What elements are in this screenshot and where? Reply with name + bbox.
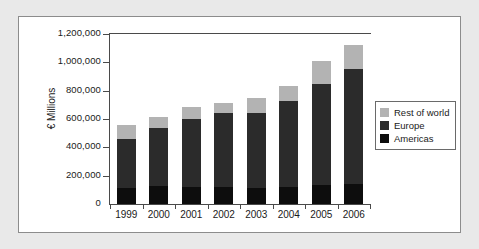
bar-segment-europe[interactable] [247, 113, 266, 189]
bar-segment-americas[interactable] [117, 188, 136, 204]
bar-segment-europe[interactable] [279, 101, 298, 186]
bar-stack[interactable] [247, 98, 266, 204]
legend-swatch-icon [380, 134, 389, 143]
bar-stack[interactable] [312, 61, 331, 204]
bar-group[interactable] [279, 34, 298, 204]
y-axis-title: € Millions [46, 54, 57, 164]
bar-segment-rest-of-world[interactable] [117, 125, 136, 138]
bar-group[interactable] [344, 34, 363, 204]
bar-segment-rest-of-world[interactable] [344, 45, 363, 69]
x-axis-tick-label: 2001 [175, 209, 208, 220]
bar-segment-rest-of-world[interactable] [182, 107, 201, 119]
y-axis-tick-label: 600,000 [66, 112, 101, 123]
bar-group[interactable] [117, 34, 136, 204]
bar-stack[interactable] [279, 86, 298, 204]
x-axis-tick-label: 2003 [240, 209, 273, 220]
x-axis-tick-label: 2002 [208, 209, 241, 220]
bar-segment-europe[interactable] [214, 113, 233, 187]
bar-stack[interactable] [182, 107, 201, 204]
x-axis-tick-mark [370, 204, 371, 209]
bar-segment-rest-of-world[interactable] [247, 98, 266, 112]
bar-segment-rest-of-world[interactable] [149, 117, 168, 127]
bar-segment-europe[interactable] [149, 128, 168, 187]
bar-segment-rest-of-world[interactable] [214, 103, 233, 113]
y-axis-tick-label: 1,200,000 [58, 27, 101, 38]
x-axis-tick-label: 2004 [273, 209, 306, 220]
bar-segment-europe[interactable] [312, 84, 331, 185]
legend-item-label: Rest of world [394, 107, 449, 118]
y-axis-tick-label: 200,000 [66, 169, 101, 180]
y-axis-tick-label: 1,000,000 [58, 55, 101, 66]
bar-group[interactable] [247, 34, 266, 204]
bar-group[interactable] [214, 34, 233, 204]
bar-group[interactable] [312, 34, 331, 204]
bar-segment-americas[interactable] [344, 184, 363, 204]
x-axis-tick-label: 2006 [338, 209, 371, 220]
bar-segment-rest-of-world[interactable] [312, 61, 331, 84]
bar-group[interactable] [182, 34, 201, 204]
x-axis-tick-label: 1999 [110, 209, 143, 220]
bar-segment-europe[interactable] [117, 139, 136, 188]
legend-item[interactable]: Americas [380, 132, 449, 145]
bar-stack[interactable] [117, 125, 136, 204]
bar-segment-americas[interactable] [182, 187, 201, 204]
bar-segment-europe[interactable] [344, 69, 363, 184]
x-axis-tick-label: 2000 [143, 209, 176, 220]
bar-segment-americas[interactable] [312, 185, 331, 204]
y-axis-tick-label: 400,000 [66, 140, 101, 151]
bar-segment-americas[interactable] [149, 186, 168, 204]
stacked-bar-chart: € Millions 0200,000400,000600,000800,000… [19, 17, 462, 234]
y-axis-tick-label: 800,000 [66, 84, 101, 95]
bar-segment-americas[interactable] [279, 187, 298, 204]
legend-item-label: Europe [394, 120, 425, 131]
bars-container [110, 34, 370, 204]
bar-stack[interactable] [214, 103, 233, 204]
bar-segment-europe[interactable] [182, 119, 201, 187]
y-axis-tick-label: 0 [96, 197, 101, 208]
legend-swatch-icon [380, 108, 389, 117]
bar-segment-americas[interactable] [247, 188, 266, 204]
chart-panel: € Millions 0200,000400,000600,000800,000… [18, 16, 461, 233]
x-axis-tick-label: 2005 [305, 209, 338, 220]
chart-page: € Millions 0200,000400,000600,000800,000… [0, 0, 479, 249]
bar-group[interactable] [149, 34, 168, 204]
bar-segment-americas[interactable] [214, 187, 233, 204]
legend-item[interactable]: Rest of world [380, 106, 449, 119]
legend-item[interactable]: Europe [380, 119, 449, 132]
bar-segment-rest-of-world[interactable] [279, 86, 298, 101]
chart-legend: Rest of worldEuropeAmericas [375, 101, 456, 150]
legend-item-label: Americas [394, 133, 434, 144]
legend-swatch-icon [380, 121, 389, 130]
bar-stack[interactable] [149, 117, 168, 204]
bar-stack[interactable] [344, 45, 363, 204]
